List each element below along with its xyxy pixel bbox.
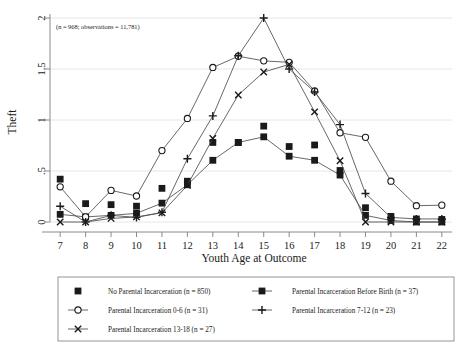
data-point-0-8 — [260, 123, 267, 130]
x-tick-label-5: 12 — [182, 240, 193, 251]
y-axis-title: Theft — [6, 109, 18, 135]
y-tick-label-1: .5 — [36, 167, 47, 175]
data-point-0-12 — [362, 204, 369, 211]
sample-size-annotation: (n = 968; observations = 11,781) — [56, 23, 140, 31]
data-point-2-15 — [439, 202, 445, 208]
legend-marker-0 — [75, 288, 82, 295]
x-tick-label-12: 19 — [360, 240, 371, 251]
data-point-2-2 — [108, 187, 114, 193]
y-tick-label-4: 2 — [36, 15, 47, 20]
data-point-2-0 — [57, 184, 63, 190]
data-point-0-1 — [82, 200, 89, 207]
y-tick-label-0: 0 — [36, 219, 47, 224]
x-tick-label-2: 9 — [108, 240, 113, 251]
data-point-1-10 — [311, 157, 318, 164]
x-tick-label-11: 18 — [335, 240, 346, 251]
data-point-1-6 — [209, 157, 216, 164]
chart-canvas: 0.511.52 78910111213141516171819202122 T… — [0, 0, 461, 350]
data-point-0-2 — [108, 201, 115, 208]
x-axis-title: Youth Age at Outcome — [201, 252, 306, 265]
legend-label-2: Parental Incarceration 0-6 (n = 31) — [108, 307, 208, 315]
legend-marker-2 — [75, 307, 81, 313]
x-tick-label-13: 20 — [386, 240, 397, 251]
x-tick-label-7: 14 — [233, 240, 244, 251]
x-tick-label-0: 7 — [58, 240, 63, 251]
data-point-0-9 — [286, 143, 293, 150]
data-point-0-4 — [159, 185, 166, 192]
data-point-2-14 — [413, 203, 419, 209]
x-tick-label-3: 10 — [131, 240, 142, 251]
x-tick-label-15: 22 — [437, 240, 448, 251]
legend-label-1: Parental Incarceration Before Birth (n =… — [292, 288, 419, 296]
x-tick-label-4: 11 — [157, 240, 167, 251]
data-point-2-13 — [388, 178, 394, 184]
legend-label-4: Parental Incarceration 13-18 (n = 27) — [108, 326, 215, 334]
legend-label-3: Parental Incarceration 7-12 (n = 23) — [292, 307, 396, 315]
data-point-1-9 — [286, 153, 293, 160]
data-point-0-0 — [57, 176, 64, 183]
data-point-1-4 — [159, 200, 166, 207]
data-point-2-8 — [261, 58, 267, 64]
data-point-2-6 — [210, 64, 216, 70]
x-tick-label-9: 16 — [284, 240, 295, 251]
data-point-2-4 — [159, 148, 165, 154]
data-point-1-11 — [337, 172, 344, 179]
data-point-2-5 — [184, 115, 190, 121]
x-tick-label-14: 21 — [411, 240, 422, 251]
theft-by-age-chart: 0.511.52 78910111213141516171819202122 T… — [0, 0, 461, 350]
y-tick-label-3: 1.5 — [36, 62, 47, 75]
chart-background — [0, 0, 461, 350]
data-point-1-8 — [260, 133, 267, 140]
legend-label-0: No Parental Incarceration (n = 850) — [108, 288, 211, 296]
data-point-0-3 — [133, 203, 140, 210]
data-point-2-12 — [362, 134, 368, 140]
x-tick-label-6: 13 — [208, 240, 219, 251]
x-tick-label-8: 15 — [258, 240, 269, 251]
data-point-2-3 — [133, 193, 139, 199]
data-point-1-0 — [57, 211, 64, 218]
data-point-0-10 — [311, 142, 318, 149]
x-tick-label-10: 17 — [309, 240, 320, 251]
data-point-1-7 — [235, 139, 242, 146]
x-tick-label-1: 8 — [83, 240, 88, 251]
legend-marker-1 — [259, 288, 266, 295]
y-tick-label-2: 1 — [36, 117, 47, 122]
